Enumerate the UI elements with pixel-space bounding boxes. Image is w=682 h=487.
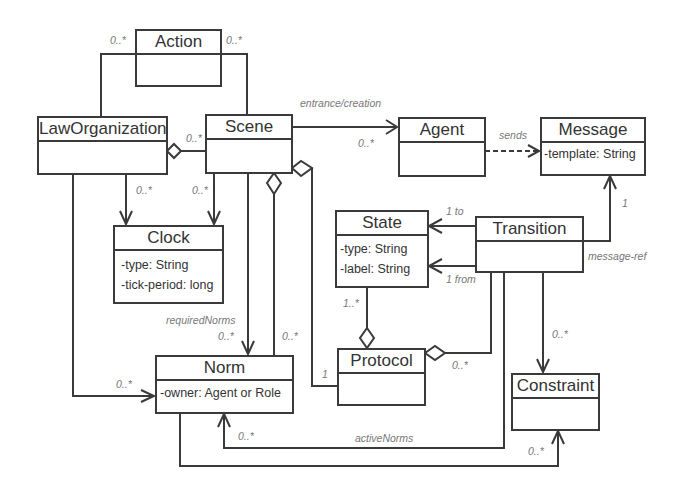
class-constraint[interactable]: Constraint (511, 373, 600, 431)
action-lawork-association (101, 54, 135, 116)
aggregation-diamond-icon (292, 161, 312, 176)
class-attributes (137, 55, 220, 85)
multiplicity-label: 0..* (136, 184, 152, 196)
class-state[interactable]: State -type: String -label: String (335, 210, 429, 288)
uml-diagram: Action LawOrganization Scene Agent Messa… (0, 0, 682, 487)
association-name-label: sends (499, 129, 527, 141)
class-agent[interactable]: Agent (398, 117, 486, 177)
class-name: Norm (157, 357, 292, 381)
class-name: LawOrganization (39, 118, 166, 142)
multiplicity-label: 0..* (358, 137, 374, 149)
class-name: Protocol (339, 350, 424, 374)
class-law-organization[interactable]: LawOrganization (37, 116, 168, 175)
multiplicity-label: 0..* (218, 330, 234, 342)
class-name: Transition (477, 218, 582, 242)
class-name: Action (137, 31, 220, 55)
multiplicity-label: 0..* (116, 378, 132, 390)
class-attributes: -type: String -label: String (337, 236, 427, 286)
class-norm[interactable]: Norm -owner: Agent or Role (155, 355, 294, 414)
class-attributes (477, 242, 582, 271)
class-attributes: -owner: Agent or Role (157, 381, 292, 412)
class-attributes: -type: String -tick-period: long (115, 251, 222, 302)
multiplicity-label: 1 (622, 197, 628, 209)
multiplicity-label: 1..* (343, 297, 359, 309)
class-attributes (513, 399, 598, 429)
role-label: activeNorms (355, 432, 413, 444)
attribute-template: -template: String (544, 146, 642, 163)
class-attributes (400, 143, 484, 175)
class-action[interactable]: Action (135, 29, 222, 87)
class-scene[interactable]: Scene (205, 114, 293, 174)
class-attributes: -template: String (542, 143, 644, 174)
scene-protocol-aggregation (312, 168, 337, 386)
attribute-label: -label: String (340, 259, 424, 279)
role-label: message-ref (588, 250, 646, 262)
multiplicity-label: 0..* (282, 330, 298, 342)
multiplicity-label: 0..* (452, 359, 468, 371)
attribute-type: -type: String (121, 255, 216, 275)
class-protocol[interactable]: Protocol (337, 348, 426, 406)
class-attributes (39, 142, 166, 173)
role-label: requiredNorms (166, 314, 235, 326)
class-transition[interactable]: Transition (475, 216, 584, 273)
multiplicity-label: 1 (322, 368, 328, 380)
action-scene-association (221, 54, 247, 114)
class-name: Scene (207, 116, 291, 140)
attribute-type: -type: String (340, 239, 424, 259)
multiplicity-label: 0..* (238, 430, 254, 442)
class-name: Clock (115, 227, 222, 251)
class-name: Constraint (513, 375, 598, 399)
multiplicity-label: 0..* (226, 34, 242, 46)
multiplicity-label: 0..* (110, 34, 126, 46)
aggregation-diamond-icon (167, 144, 181, 158)
class-clock[interactable]: Clock -type: String -tick-period: long (113, 225, 224, 304)
class-name: Message (542, 119, 644, 143)
multiplicity-label: 0..* (186, 132, 202, 144)
class-message[interactable]: Message -template: String (540, 117, 646, 176)
role-label: 1 from (446, 273, 476, 285)
class-attributes (207, 140, 291, 172)
aggregation-diamond-icon (425, 346, 445, 360)
aggregation-diamond-icon (360, 328, 374, 348)
class-attributes (339, 374, 424, 404)
attribute-owner: -owner: Agent or Role (160, 385, 289, 402)
multiplicity-label: 0..* (528, 445, 544, 457)
aggregation-diamond-icon (267, 173, 281, 194)
association-name-label: entrance/creation (300, 97, 381, 109)
class-name: Agent (400, 119, 484, 143)
multiplicity-label: 0..* (192, 184, 208, 196)
class-name: State (337, 212, 427, 236)
role-label: 1 to (446, 205, 464, 217)
attribute-tick-period: -tick-period: long (121, 275, 216, 295)
multiplicity-label: 0..* (552, 328, 568, 340)
